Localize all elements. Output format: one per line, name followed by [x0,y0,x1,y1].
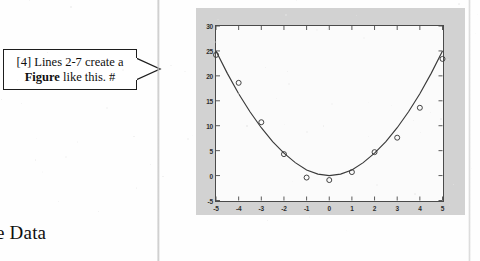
scan-speck [106,107,108,109]
scan-speck [287,71,288,72]
scan-speck [368,102,369,103]
xtick-label: 0 [328,205,331,212]
data-point-marker [259,120,264,125]
xtick-label: 1 [350,205,353,212]
callout-bold-word: Figure [25,70,60,84]
ytick-label: -5 [208,197,213,204]
scan-speck [35,159,37,161]
scan-speck [98,211,99,212]
scan-seam-line [157,0,160,261]
scan-speck [471,168,472,169]
xtick-label: -2 [281,205,286,212]
xtick-label: -1 [304,205,309,212]
xtick-label: -5 [213,205,218,212]
scan-speck [21,103,22,104]
scan-speck [150,164,151,165]
scan-speck [30,233,31,234]
chart-plot-svg [196,8,465,215]
scan-speck [276,98,277,99]
data-point-marker [236,80,241,85]
callout-line-2-rest: like this. # [60,70,116,84]
data-point-marker [417,105,422,110]
scan-speck [296,0,297,1]
scan-speck [284,124,285,125]
scan-speck [346,230,347,231]
scan-speck [316,29,318,31]
scan-speck [170,65,171,66]
scan-speck [338,20,339,21]
xtick-label: -4 [236,205,241,212]
scan-speck [306,131,308,133]
scan-speck [29,0,30,1]
scan-speck [133,136,134,137]
callout-line-1: [4] Lines 2-7 create a [17,55,124,70]
scan-speck [414,193,416,195]
scan-speck [58,201,59,202]
scan-speck [36,138,37,139]
data-point-marker [304,175,309,180]
ytick-label: 10 [206,122,213,129]
scan-speck [265,67,266,68]
scan-speck [17,80,18,81]
scan-speck [440,118,442,120]
scan-speck [246,125,248,127]
scan-speck [77,141,78,142]
scan-speck [447,59,448,60]
scan-speck [363,37,365,39]
data-point-marker [440,56,445,61]
xtick-label: 2 [373,205,376,212]
xtick-label: 3 [395,205,398,212]
scan-speck [413,120,414,121]
scan-speck [458,3,460,5]
axis-ticks [216,26,443,201]
scan-speck [303,161,304,162]
ytick-label: 30 [206,23,213,30]
scan-speck [309,216,311,218]
fitted-curve [216,51,443,176]
xtick-label: -3 [259,205,264,212]
figure-annotation-callout: [4] Lines 2-7 create a Figure like this.… [3,49,137,90]
scan-speck [192,135,193,136]
data-point-marker [327,178,332,183]
data-point-marker [395,135,400,140]
scan-speck [475,33,476,34]
scan-speck [87,58,88,59]
scan-speck [47,52,48,53]
scan-speck [65,156,67,158]
scan-speck [36,235,37,236]
scan-speck [288,83,290,85]
scanned-page: -5-4-3-2-1012345-5051015202530 [4] Lines… [0,0,480,261]
scan-speck [420,132,421,133]
data-point-markers [214,52,446,182]
scan-speck [54,75,55,76]
scan-speck [187,138,189,140]
scan-speck [327,28,329,30]
scan-shadow-band [0,237,480,253]
scan-speck [331,103,332,104]
scan-speck [391,105,392,106]
xtick-label: 4 [418,205,421,212]
scan-speck [162,176,164,178]
scan-speck [122,69,124,71]
scan-speck [376,184,378,186]
matlab-figure-panel: -5-4-3-2-1012345-5051015202530 [196,8,465,215]
scan-speck [267,220,268,221]
scan-speck [215,41,217,43]
scan-speck [184,71,186,73]
scan-speck [136,187,138,189]
scan-speck [449,204,450,205]
ytick-label: 5 [210,147,213,154]
scan-seam-line-right [468,0,471,261]
ytick-label: 0 [210,172,213,179]
ytick-label: 25 [206,47,213,54]
scan-speck [42,171,44,173]
ytick-label: 15 [206,97,213,104]
scan-speck [70,6,72,8]
xtick-label: 5 [441,205,444,212]
ytick-label: 20 [206,72,213,79]
scan-speck [1,99,2,100]
scan-speck [477,14,478,15]
